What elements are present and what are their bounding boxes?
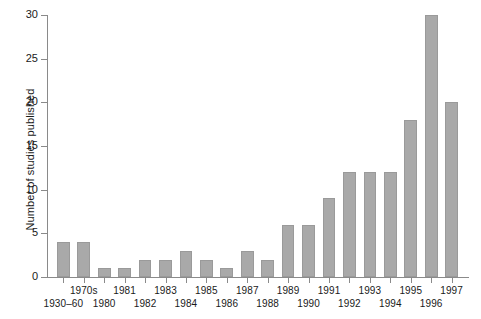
x-axis-tick-mark bbox=[411, 278, 412, 283]
y-axis-tick: 15 bbox=[41, 146, 48, 147]
y-axis-tick: 10 bbox=[41, 190, 48, 191]
bar bbox=[445, 102, 458, 277]
x-axis-tick-mark bbox=[63, 278, 64, 283]
x-axis-tick-label: 1982 bbox=[134, 298, 157, 309]
x-axis-tick-mark bbox=[349, 278, 350, 283]
x-axis-tick-mark bbox=[247, 278, 248, 283]
y-axis-tick-mark bbox=[41, 146, 48, 147]
y-axis-title-container: Number of studies published bbox=[2, 0, 22, 290]
y-axis-tick: 25 bbox=[41, 59, 48, 60]
x-axis-tick-mark bbox=[125, 278, 126, 283]
x-axis-tick-mark bbox=[452, 278, 453, 283]
y-axis-tick-mark bbox=[41, 190, 48, 191]
y-axis-tick-mark bbox=[41, 59, 48, 60]
x-axis-tick-label: 1987 bbox=[236, 285, 259, 296]
x-axis-tick-label: 1997 bbox=[440, 285, 463, 296]
bar-chart: Number of studies published 051015202530… bbox=[0, 0, 481, 319]
x-axis-tick-label: 1995 bbox=[399, 285, 422, 296]
bars-layer bbox=[48, 15, 469, 277]
y-axis-tick-label: 10 bbox=[26, 183, 38, 195]
bar bbox=[384, 172, 397, 277]
bar bbox=[118, 268, 131, 277]
x-axis-tick-mark bbox=[309, 278, 310, 283]
y-axis-tick-label: 0 bbox=[32, 270, 38, 282]
x-axis-tick-mark bbox=[206, 278, 207, 283]
x-axis-tick-mark bbox=[166, 278, 167, 283]
x-axis-tick-label: 1981 bbox=[113, 285, 136, 296]
x-axis-tick-mark bbox=[268, 278, 269, 283]
bar bbox=[98, 268, 111, 277]
y-axis-tick-mark bbox=[41, 15, 48, 16]
x-axis-tick-mark bbox=[288, 278, 289, 283]
x-axis-tick-label: 1930–60 bbox=[43, 298, 83, 309]
y-axis-tick-label: 25 bbox=[26, 52, 38, 64]
x-axis-tick-label: 1993 bbox=[359, 285, 382, 296]
x-axis-tick-label: 1991 bbox=[318, 285, 341, 296]
bar bbox=[404, 120, 417, 277]
x-axis-tick-mark bbox=[145, 278, 146, 283]
x-axis-tick-label: 1990 bbox=[297, 298, 320, 309]
x-axis-tick-label: 1980 bbox=[93, 298, 116, 309]
x-axis-tick-label: 1986 bbox=[215, 298, 238, 309]
y-axis-tick-label: 15 bbox=[26, 139, 38, 151]
bar bbox=[425, 15, 438, 277]
bar bbox=[282, 225, 295, 277]
x-axis-tick-mark bbox=[431, 278, 432, 283]
x-axis-tick-mark bbox=[186, 278, 187, 283]
bar bbox=[261, 260, 274, 277]
y-axis-tick-mark bbox=[41, 102, 48, 103]
x-axis-tick-mark bbox=[104, 278, 105, 283]
x-axis-tick-label: 1985 bbox=[195, 285, 218, 296]
y-axis-tick-label: 30 bbox=[26, 8, 38, 20]
bar bbox=[200, 260, 213, 277]
x-axis-tick-label: 1983 bbox=[154, 285, 177, 296]
y-axis-tick-label: 20 bbox=[26, 95, 38, 107]
y-axis-tick: 0 bbox=[41, 277, 48, 278]
bar bbox=[77, 242, 90, 277]
x-axis-tick-label: 1994 bbox=[379, 298, 402, 309]
bar bbox=[241, 251, 254, 277]
y-axis-tick: 5 bbox=[41, 233, 48, 234]
y-axis-tick: 20 bbox=[41, 102, 48, 103]
x-axis-tick-label: 1992 bbox=[338, 298, 361, 309]
bar bbox=[139, 260, 152, 277]
x-axis-tick-mark bbox=[227, 278, 228, 283]
bar bbox=[302, 225, 315, 277]
bar bbox=[159, 260, 172, 277]
bar bbox=[364, 172, 377, 277]
x-axis-tick-mark bbox=[329, 278, 330, 283]
bar bbox=[180, 251, 193, 277]
bar bbox=[343, 172, 356, 277]
y-axis-tick-mark bbox=[41, 277, 48, 278]
y-axis-tick-mark bbox=[41, 233, 48, 234]
x-axis-tick-label: 1989 bbox=[277, 285, 300, 296]
x-axis-tick-label: 1970s bbox=[70, 285, 98, 296]
x-axis-tick-mark bbox=[84, 278, 85, 283]
bar bbox=[57, 242, 70, 277]
x-axis-tick-label: 1996 bbox=[420, 298, 443, 309]
bar bbox=[323, 198, 336, 277]
bar bbox=[220, 268, 233, 277]
x-axis-tick-mark bbox=[370, 278, 371, 283]
y-axis-tick-label: 5 bbox=[32, 226, 38, 238]
x-axis-tick-label: 1984 bbox=[175, 298, 198, 309]
y-axis-tick: 30 bbox=[41, 15, 48, 16]
x-axis-tick-label: 1988 bbox=[256, 298, 279, 309]
x-axis-tick-mark bbox=[390, 278, 391, 283]
x-axis-line bbox=[47, 277, 469, 278]
